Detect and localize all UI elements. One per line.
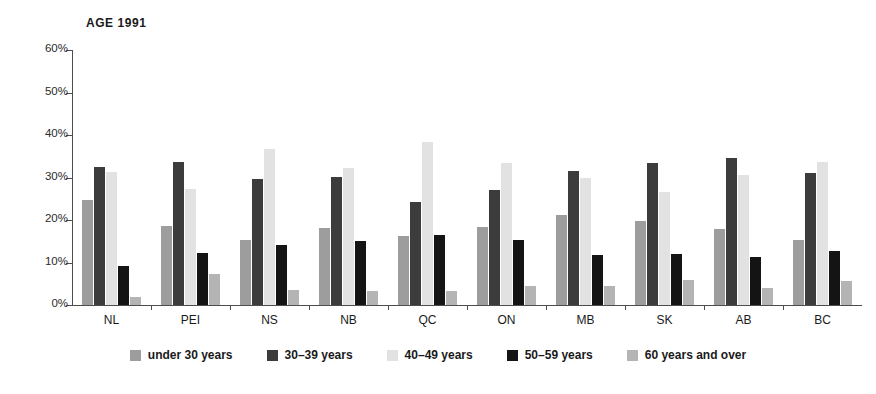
bar	[525, 286, 536, 305]
bar	[264, 149, 275, 305]
bar	[489, 190, 500, 305]
legend-label: 60 years and over	[645, 348, 746, 362]
bar	[738, 175, 749, 305]
bar	[714, 229, 725, 305]
bar-group	[151, 50, 230, 305]
x-axis-label: BC	[814, 313, 831, 327]
bar	[793, 240, 804, 305]
bar-group	[230, 50, 309, 305]
legend-swatch-icon	[267, 350, 278, 361]
bar	[288, 290, 299, 305]
bar	[367, 291, 378, 305]
bar	[568, 171, 579, 305]
bar	[94, 167, 105, 305]
x-axis-label: PEI	[181, 313, 200, 327]
bar	[130, 297, 141, 305]
x-axis-label: QC	[419, 313, 437, 327]
legend-swatch-icon	[627, 350, 638, 361]
bar-group	[546, 50, 625, 305]
x-axis-tick	[151, 305, 152, 310]
bar	[726, 158, 737, 305]
bar	[118, 266, 129, 305]
bar	[355, 241, 366, 305]
legend-swatch-icon	[387, 350, 398, 361]
legend-label: 30–39 years	[285, 348, 353, 362]
bar-group	[72, 50, 151, 305]
bar	[683, 280, 694, 306]
bar	[659, 192, 670, 305]
x-axis-label: NL	[104, 313, 119, 327]
x-axis-label: AB	[735, 313, 751, 327]
chart-legend: under 30 years30–39 years40–49 years50–5…	[0, 348, 876, 362]
legend-item[interactable]: 60 years and over	[627, 348, 746, 362]
bar	[446, 291, 457, 305]
x-axis-tick	[467, 305, 468, 310]
y-axis-tick-label: 20%	[45, 212, 68, 224]
x-axis-label: SK	[656, 313, 672, 327]
x-axis-label: NS	[261, 313, 278, 327]
legend-label: 40–49 years	[405, 348, 473, 362]
bar	[106, 172, 117, 305]
bar-group	[388, 50, 467, 305]
bar-group	[309, 50, 388, 305]
chart-title: AGE 1991	[86, 16, 146, 30]
bar	[434, 235, 445, 305]
x-axis-tick	[546, 305, 547, 310]
bar	[604, 286, 615, 305]
y-axis-tick-label: 60%	[45, 42, 68, 54]
bar	[817, 162, 828, 305]
legend-item[interactable]: 30–39 years	[267, 348, 353, 362]
bar	[410, 202, 421, 305]
legend-label: 50–59 years	[525, 348, 593, 362]
bar	[556, 215, 567, 305]
legend-label: under 30 years	[148, 348, 233, 362]
legend-item[interactable]: 40–49 years	[387, 348, 473, 362]
bar	[501, 163, 512, 305]
bar	[647, 163, 658, 305]
y-axis-tick-label: 30%	[45, 170, 68, 182]
bar	[185, 189, 196, 305]
bar	[580, 178, 591, 305]
y-axis-tick-label: 0%	[51, 297, 68, 309]
x-axis-label: MB	[577, 313, 595, 327]
legend-item[interactable]: under 30 years	[130, 348, 233, 362]
y-axis-tick-label: 40%	[45, 127, 68, 139]
y-axis-tick-label: 10%	[45, 255, 68, 267]
bar	[829, 251, 840, 305]
x-axis-tick	[704, 305, 705, 310]
bar-group	[783, 50, 862, 305]
bar	[276, 245, 287, 305]
x-axis-label: ON	[498, 313, 516, 327]
bar	[161, 226, 172, 305]
bar	[635, 221, 646, 305]
bar	[319, 228, 330, 305]
legend-item[interactable]: 50–59 years	[507, 348, 593, 362]
bar	[82, 200, 93, 305]
legend-swatch-icon	[130, 350, 141, 361]
bar	[592, 255, 603, 305]
bar	[841, 281, 852, 305]
x-axis-tick	[783, 305, 784, 310]
bar	[671, 254, 682, 305]
x-axis-tick	[230, 305, 231, 310]
x-axis-label: NB	[340, 313, 357, 327]
y-axis-tick-label: 50%	[45, 85, 68, 97]
bar	[750, 257, 761, 305]
x-axis-tick	[388, 305, 389, 310]
bar-group	[625, 50, 704, 305]
bar	[209, 274, 220, 305]
x-axis-tick	[309, 305, 310, 310]
bar	[252, 179, 263, 305]
bar	[477, 227, 488, 305]
bar	[805, 173, 816, 305]
legend-swatch-icon	[507, 350, 518, 361]
chart-container: AGE 1991 0%10%20%30%40%50%60% NLPEINSNBQ…	[0, 0, 876, 394]
bar	[343, 168, 354, 305]
bar	[197, 253, 208, 305]
bar	[422, 142, 433, 305]
bar	[762, 288, 773, 305]
bar-group	[467, 50, 546, 305]
bar	[398, 236, 409, 305]
bar	[173, 162, 184, 305]
x-axis-tick	[625, 305, 626, 310]
